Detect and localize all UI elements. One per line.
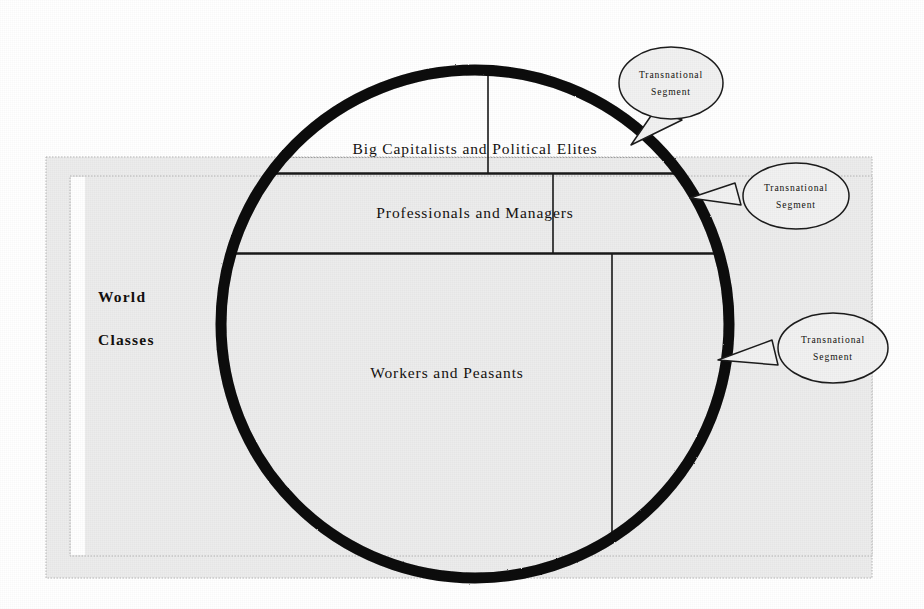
stratum-label-elites: Big Capitalists and Political Elites <box>352 140 597 157</box>
stratum-label-professionals: Professionals and Managers <box>376 204 573 221</box>
callout-bottom-line-1: Transnational <box>801 334 865 345</box>
diagram-canvas: Big Capitalists and Political Elites Pro… <box>0 0 924 609</box>
world-classes-line-2: Classes <box>98 331 155 348</box>
left-gutter-strip <box>71 177 85 555</box>
callout-top-line-2: Segment <box>651 86 691 97</box>
world-classes-diagram: Big Capitalists and Political Elites Pro… <box>0 0 924 609</box>
callout-top-bubble <box>619 47 723 119</box>
callout-bottom-bubble <box>778 313 888 383</box>
callout-middle-line-2: Segment <box>776 199 816 210</box>
world-classes-line-1: World <box>98 288 146 305</box>
callout-middle-bubble <box>743 163 849 229</box>
callout-bottom-line-2: Segment <box>813 351 853 362</box>
stratum-label-workers: Workers and Peasants <box>370 364 524 381</box>
callout-top-line-1: Transnational <box>639 69 703 80</box>
callout-middle-line-1: Transnational <box>764 182 828 193</box>
